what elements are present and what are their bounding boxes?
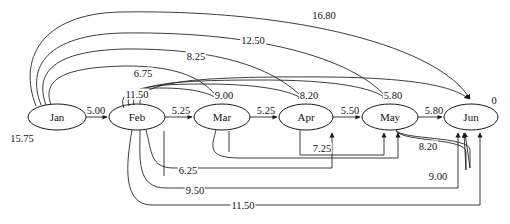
edge-label-feb-mar: 5.25 [171, 105, 191, 116]
node-label-apr: Apr [297, 111, 314, 123]
upper-arc-group [30, 12, 470, 108]
arc-feb-may-lower [146, 130, 332, 168]
edge-label-apr-may-lower: 7.25 [312, 143, 332, 154]
node-label-jun: Jun [463, 111, 479, 123]
edge-label-jan-feb: 5.00 [86, 105, 106, 116]
arc-jan-jun [30, 12, 470, 106]
edge-label-feb-may-lower: 6.25 [178, 165, 198, 176]
edge-label-feb-jun-lower: 9.50 [185, 185, 205, 196]
edge-label-feb-may-upper: 8.20 [299, 90, 319, 101]
node-label-jan: Jan [50, 111, 65, 123]
edge-label-jan-may: 12.50 [240, 35, 266, 46]
annotation-sink-balance: 0 [491, 95, 496, 106]
arc-mar-jun-lower [213, 130, 398, 158]
edge-label-jan-mar: 6.75 [133, 68, 153, 79]
edge-label-may-jun-lower: 8.20 [418, 141, 438, 152]
arc-feb-jun-lower [140, 130, 458, 188]
edge-label-may-jun: 5.80 [424, 105, 444, 116]
edge-label-jan-jun: 16.80 [311, 10, 337, 21]
edge-label-feb-apr-upper: 9.00 [214, 90, 234, 101]
edge-label-feb-jun-lower-2: 11.50 [230, 200, 255, 211]
edge-label-jan-apr: 8.25 [186, 51, 206, 62]
node-label-mar: Mar [213, 111, 232, 123]
edge-label-mar-jun-lower: 9.00 [428, 171, 448, 182]
edge-label-feb-jun-upper: 5.80 [383, 90, 403, 101]
flow-diagram: Jan Feb Mar Apr May Jun 5.00 5.25 5.25 5… [0, 0, 510, 224]
edge-label-feb-mar-upper: 11.50 [124, 89, 149, 100]
annotation-source-supply: 15.75 [10, 133, 34, 144]
node-label-feb: Feb [129, 111, 146, 123]
edge-label-apr-may: 5.50 [340, 105, 360, 116]
edge-label-mar-apr: 5.25 [256, 105, 276, 116]
node-label-may: May [380, 111, 401, 123]
